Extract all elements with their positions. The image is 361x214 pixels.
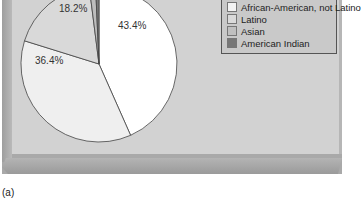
legend-item-asian: Asian [227,26,265,38]
label-african-american-pct: 36.4% [35,55,63,66]
legend-label: Latino [241,14,267,25]
swatch-african-american [227,2,237,12]
swatch-american-indian [227,38,237,48]
swatch-latino [227,14,237,24]
legend-label: American Indian [241,38,310,49]
legend-item-latino: Latino [227,14,267,26]
label-latino-pct: 18.2% [59,3,87,14]
legend-item-african-american: African-American, not Latino [227,2,361,14]
figure-caption: (a) [2,187,14,198]
legend-label: Asian [241,26,265,37]
legend-item-american-indian: American Indian [227,38,310,50]
legend-label: African-American, not Latino [241,2,361,13]
swatch-asian [227,26,237,36]
legend: African-American, not Latino Latino Asia… [221,0,337,54]
label-white-pct: 43.4% [118,20,146,31]
